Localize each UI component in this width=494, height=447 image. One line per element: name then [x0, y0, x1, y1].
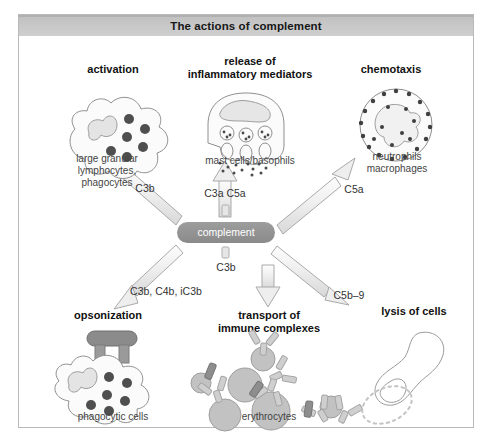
figure-panel: The actions of complement [18, 14, 474, 428]
heading-chemotaxis: chemotaxis [331, 63, 451, 76]
heading-inflammation-line1: release of [165, 55, 335, 68]
complement-node[interactable]: complement [177, 222, 275, 243]
caption-opsonization: phagocytic cells [43, 411, 183, 423]
diagram-canvas: activation large granular lymphocytes, p… [19, 37, 473, 427]
caption-chemotaxis-line2: macrophages [337, 163, 457, 175]
heading-inflammation: release of inflammatory mediators [165, 55, 335, 81]
mediator-label-c3b-c4b-ic3b: C3b, C4b, iC3b [101, 285, 231, 297]
caption-activation-line2: lymphocytes, [47, 165, 167, 177]
lysis-figure [357, 323, 477, 433]
receptor-right [119, 345, 129, 363]
figure-title-bar: The actions of complement [19, 15, 473, 37]
opsonized-particle [87, 331, 137, 346]
heading-opsonization: opsonization [43, 309, 173, 322]
caption-inflammation: mast cells/basophils [170, 155, 330, 167]
heading-transport: transport of immune complexes [189, 309, 349, 335]
arrow-to-transport [256, 265, 280, 307]
caption-activation-line1: large granular [47, 153, 167, 165]
mediator-label-c5b9: C5b–9 [319, 289, 379, 301]
heading-lysis: lysis of cells [359, 305, 469, 318]
mediator-label-c3b-activation: C3b [115, 182, 175, 194]
stub-arrow-down [222, 247, 229, 258]
caption-chemotaxis-line1: neutrophils [337, 151, 457, 163]
heading-transport-line1: transport of [189, 309, 349, 322]
mediator-label-c3b-transport: C3b [201, 261, 251, 273]
heading-inflammation-line2: inflammatory mediators [165, 68, 335, 81]
stub-arrow-up [222, 205, 229, 216]
mediator-label-c5a: C5a [329, 183, 379, 195]
heading-activation: activation [53, 63, 173, 76]
arrow-to-opsonization [114, 245, 183, 309]
caption-chemotaxis: neutrophils macrophages [337, 151, 457, 175]
mediator-label-c3a-c5a: C3a C5a [175, 187, 275, 199]
heading-transport-line2: immune complexes [189, 322, 349, 335]
page-title: The actions of complement [19, 15, 473, 37]
caption-transport: erythrocytes [199, 411, 339, 423]
